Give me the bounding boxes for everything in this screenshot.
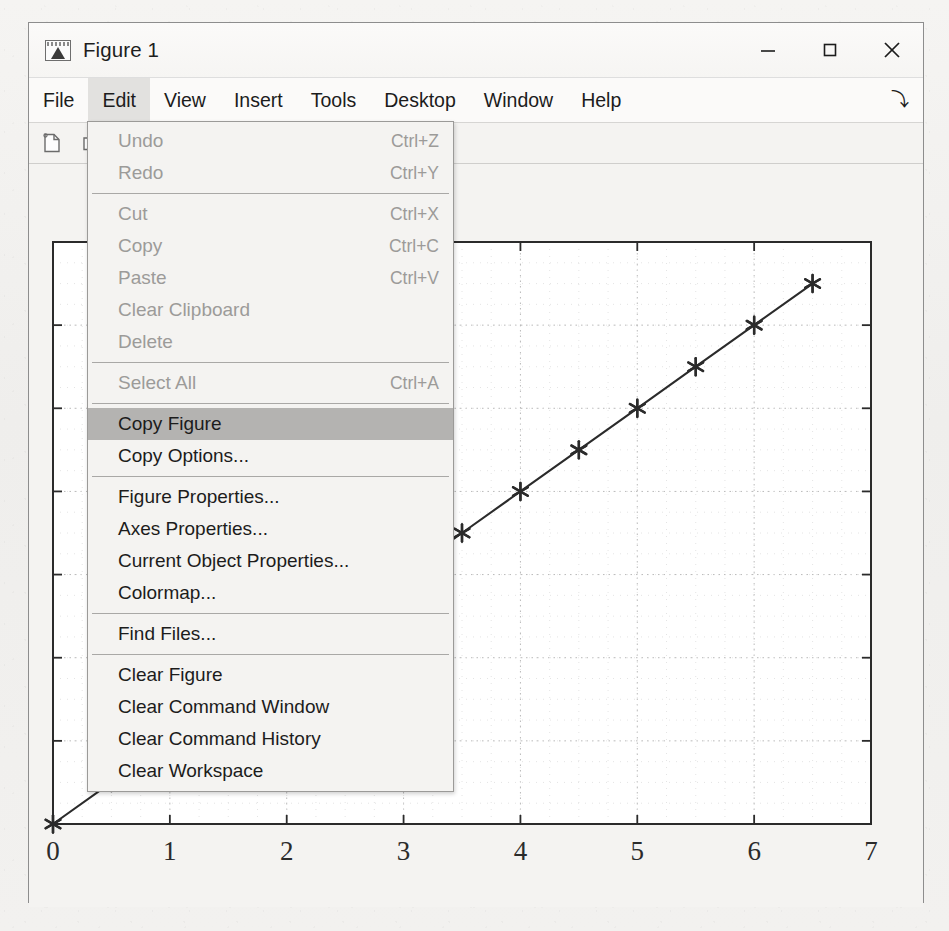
menu-item-label: Copy Figure xyxy=(118,413,439,435)
menu-item-accelerator: Ctrl+X xyxy=(390,204,439,225)
menu-item-label: Clear Clipboard xyxy=(118,299,439,321)
menu-bar: File Edit View Insert Tools Desktop Wind… xyxy=(29,78,923,123)
menu-item-label: Paste xyxy=(118,267,368,289)
menu-edit[interactable]: Edit xyxy=(88,78,150,122)
menu-item-accelerator: Ctrl+V xyxy=(390,268,439,289)
maximize-button[interactable] xyxy=(799,23,861,77)
menu-item-label: Axes Properties... xyxy=(118,518,439,540)
menu-help[interactable]: Help xyxy=(567,78,635,122)
new-figure-icon[interactable] xyxy=(35,127,69,159)
menu-item-label: Find Files... xyxy=(118,623,439,645)
menu-item-copy: CopyCtrl+C xyxy=(88,230,453,262)
menu-separator xyxy=(92,476,449,477)
menu-item-accelerator: Ctrl+A xyxy=(390,373,439,394)
menu-item-accelerator: Ctrl+C xyxy=(389,236,439,257)
menu-overflow-arrow-icon[interactable]: ⤵ xyxy=(891,91,909,109)
menu-insert[interactable]: Insert xyxy=(220,78,297,122)
menu-item-label: Undo xyxy=(118,130,369,152)
window-controls xyxy=(737,23,923,77)
menu-item-label: Copy xyxy=(118,235,367,257)
menu-item-label: Clear Figure xyxy=(118,664,439,686)
menu-item-label: Redo xyxy=(118,162,368,184)
menu-item-redo: RedoCtrl+Y xyxy=(88,157,453,189)
x-axis-tick-label: 5 xyxy=(631,836,645,866)
menu-view[interactable]: View xyxy=(150,78,220,122)
menu-item-clear-command-history[interactable]: Clear Command History xyxy=(88,723,453,755)
x-axis-tick-label: 1 xyxy=(163,836,177,866)
menu-item-find-files[interactable]: Find Files... xyxy=(88,618,453,650)
menu-item-label: Select All xyxy=(118,372,368,394)
menu-item-label: Copy Options... xyxy=(118,445,439,467)
menu-item-label: Delete xyxy=(118,331,439,353)
menu-item-select-all: Select AllCtrl+A xyxy=(88,367,453,399)
x-axis-tick-label: 6 xyxy=(747,836,761,866)
menu-item-current-object-properties[interactable]: Current Object Properties... xyxy=(88,545,453,577)
edit-dropdown-menu[interactable]: UndoCtrl+ZRedoCtrl+YCutCtrl+XCopyCtrl+CP… xyxy=(87,121,454,792)
menu-separator xyxy=(92,403,449,404)
menu-item-copy-options[interactable]: Copy Options... xyxy=(88,440,453,472)
menu-item-accelerator: Ctrl+Y xyxy=(390,163,439,184)
menu-item-clear-figure[interactable]: Clear Figure xyxy=(88,659,453,691)
menu-separator xyxy=(92,613,449,614)
x-axis-tick-label: 0 xyxy=(46,836,60,866)
minimize-button[interactable] xyxy=(737,23,799,77)
menu-item-label: Colormap... xyxy=(118,582,439,604)
menu-item-colormap[interactable]: Colormap... xyxy=(88,577,453,609)
menu-item-copy-figure[interactable]: Copy Figure xyxy=(88,408,453,440)
menu-file[interactable]: File xyxy=(29,78,88,122)
menu-item-figure-properties[interactable]: Figure Properties... xyxy=(88,481,453,513)
x-axis-tick-label: 2 xyxy=(280,836,294,866)
menu-item-label: Clear Command Window xyxy=(118,696,439,718)
window-title: Figure 1 xyxy=(83,38,159,62)
menu-item-label: Clear Command History xyxy=(118,728,439,750)
figure-window: Figure 1 File Edit View Insert Tools Des… xyxy=(28,22,924,903)
menu-item-clear-workspace[interactable]: Clear Workspace xyxy=(88,755,453,787)
menu-separator xyxy=(92,654,449,655)
title-bar: Figure 1 xyxy=(29,23,923,78)
menu-item-clear-command-window[interactable]: Clear Command Window xyxy=(88,691,453,723)
menu-item-label: Figure Properties... xyxy=(118,486,439,508)
menu-window[interactable]: Window xyxy=(470,78,567,122)
matlab-figure-icon xyxy=(45,40,71,61)
menu-separator xyxy=(92,362,449,363)
menu-item-undo: UndoCtrl+Z xyxy=(88,125,453,157)
menu-item-label: Current Object Properties... xyxy=(118,550,439,572)
menu-item-delete: Delete xyxy=(88,326,453,358)
x-axis-tick-label: 3 xyxy=(397,836,411,866)
menu-item-label: Clear Workspace xyxy=(118,760,439,782)
menu-item-axes-properties[interactable]: Axes Properties... xyxy=(88,513,453,545)
menu-desktop[interactable]: Desktop xyxy=(370,78,470,122)
menu-separator xyxy=(92,193,449,194)
menu-item-accelerator: Ctrl+Z xyxy=(391,131,439,152)
menu-item-clear-clipboard: Clear Clipboard xyxy=(88,294,453,326)
close-button[interactable] xyxy=(861,23,923,77)
menu-item-label: Cut xyxy=(118,203,368,225)
menu-item-cut: CutCtrl+X xyxy=(88,198,453,230)
menu-item-paste: PasteCtrl+V xyxy=(88,262,453,294)
menu-tools[interactable]: Tools xyxy=(297,78,371,122)
x-axis-tick-label: 4 xyxy=(514,836,528,866)
x-axis-tick-label: 7 xyxy=(864,836,878,866)
